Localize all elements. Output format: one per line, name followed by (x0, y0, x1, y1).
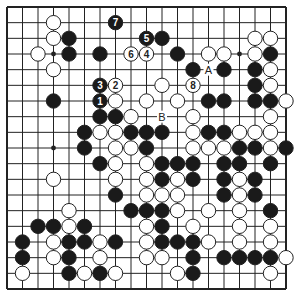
black-stone (248, 172, 262, 186)
black-stone (93, 156, 107, 170)
star-point (51, 52, 56, 57)
black-stone (232, 156, 246, 170)
black-stone (248, 141, 262, 155)
move-number: 1 (97, 96, 103, 107)
white-stone (31, 47, 45, 61)
black-stone (263, 156, 277, 170)
black-stone (186, 235, 200, 249)
white-stone (201, 47, 215, 61)
white-stone (170, 266, 184, 280)
white-stone (93, 235, 107, 249)
black-stone (186, 266, 200, 280)
black-stone (217, 188, 231, 202)
black-stone (232, 250, 246, 264)
white-stone (108, 172, 122, 186)
white-stone (77, 266, 91, 280)
black-stone (108, 109, 122, 123)
black-stone (155, 31, 169, 45)
white-stone (263, 109, 277, 123)
white-stone (108, 266, 122, 280)
black-stone (248, 250, 262, 264)
white-stone (232, 125, 246, 139)
white-stone (46, 62, 60, 76)
black-stone (170, 156, 184, 170)
white-stone (232, 172, 246, 186)
star-point (237, 52, 242, 57)
white-stone (124, 109, 138, 123)
white-stone (279, 94, 293, 108)
white-stone (217, 47, 231, 61)
star-point (51, 146, 56, 151)
white-stone (232, 188, 246, 202)
white-stone (170, 172, 184, 186)
black-stone (263, 94, 277, 108)
black-stone (139, 203, 153, 217)
point-label-b: B (158, 111, 165, 123)
black-stone (93, 109, 107, 123)
black-stone (263, 47, 277, 61)
white-stone (263, 235, 277, 249)
black-stone (232, 141, 246, 155)
white-stone (232, 235, 246, 249)
black-stone (170, 47, 184, 61)
black-stone (155, 219, 169, 233)
white-stone (15, 266, 29, 280)
black-stone (186, 156, 200, 170)
black-stone (186, 62, 200, 76)
black-stone (62, 266, 76, 280)
black-stone (263, 250, 277, 264)
white-stone (232, 219, 246, 233)
white-stone (201, 203, 215, 217)
black-stone (77, 125, 91, 139)
black-stone (139, 141, 153, 155)
go-board: AB 12345678 (0, 0, 299, 300)
black-stone (155, 203, 169, 217)
white-stone (263, 219, 277, 233)
black-stone (155, 235, 169, 249)
move-number: 4 (144, 49, 150, 60)
black-stone (217, 156, 231, 170)
white-stone (263, 266, 277, 280)
white-stone (62, 203, 76, 217)
black-stone (186, 250, 200, 264)
move-number: 8 (190, 80, 196, 91)
black-stone (201, 125, 215, 139)
black-stone (77, 141, 91, 155)
black-stone (62, 235, 76, 249)
black-stone (155, 156, 169, 170)
move-number: 5 (144, 33, 150, 44)
white-stone (263, 78, 277, 92)
white-stone (46, 31, 60, 45)
black-stone (217, 250, 231, 264)
white-stone (279, 250, 293, 264)
white-stone (263, 31, 277, 45)
black-stone (248, 188, 262, 202)
black-stone (217, 94, 231, 108)
move-number: 7 (113, 17, 119, 28)
black-stone (62, 250, 76, 264)
white-stone (155, 250, 169, 264)
black-stone (77, 219, 91, 233)
black-stone (155, 172, 169, 186)
white-stone (263, 141, 277, 155)
black-stone (108, 235, 122, 249)
black-stone (31, 219, 45, 233)
black-stone (217, 62, 231, 76)
black-stone (155, 125, 169, 139)
black-stone (124, 203, 138, 217)
white-stone (201, 235, 215, 249)
black-stone (279, 141, 293, 155)
white-stone (170, 188, 184, 202)
white-stone (108, 125, 122, 139)
point-label-a: A (205, 64, 213, 76)
white-stone (263, 62, 277, 76)
white-stone (93, 125, 107, 139)
white-stone (186, 109, 200, 123)
white-stone (248, 31, 262, 45)
black-stone (263, 203, 277, 217)
black-stone (217, 172, 231, 186)
white-stone (263, 125, 277, 139)
white-stone (46, 250, 60, 264)
white-stone (139, 219, 153, 233)
white-stone (139, 156, 153, 170)
